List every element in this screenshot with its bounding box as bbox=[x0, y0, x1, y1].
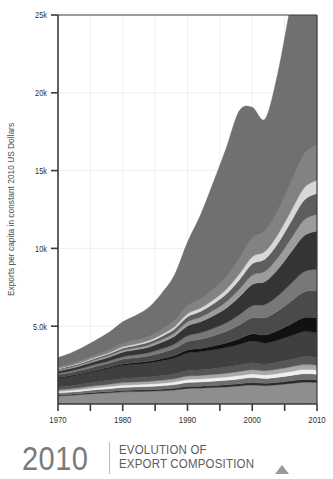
x-tick-label: 2010 bbox=[308, 414, 325, 425]
y-tick-label: 25k bbox=[35, 11, 48, 21]
x-tick-label: 2000 bbox=[244, 414, 261, 425]
stacked-area-chart: 5.0k10k15k20k25k19701980199020002010Year… bbox=[0, 0, 333, 432]
triangle-up-icon bbox=[275, 465, 289, 474]
y-axis-label: Exports per capita in constant 2010 US D… bbox=[6, 122, 17, 296]
x-tick-label: 1970 bbox=[49, 414, 66, 425]
y-tick-label: 15k bbox=[35, 166, 48, 176]
y-tick-label: 20k bbox=[35, 89, 48, 99]
chart-svg: 5.0k10k15k20k25k19701980199020002010Year… bbox=[0, 0, 333, 432]
x-tick-label: 1980 bbox=[114, 414, 131, 425]
footer-title-line-2: EXPORT COMPOSITION bbox=[119, 457, 254, 471]
infographic-page: 5.0k10k15k20k25k19701980199020002010Year… bbox=[0, 0, 333, 479]
x-tick-label: 1990 bbox=[179, 414, 196, 425]
y-tick-label: 5.0k bbox=[33, 322, 48, 332]
footer-year: 2010 bbox=[22, 440, 88, 475]
footer-divider bbox=[109, 442, 110, 474]
footer-inner: 2010 EVOLUTION OF EXPORT COMPOSITION bbox=[22, 440, 289, 475]
chart-footer: 2010 EVOLUTION OF EXPORT COMPOSITION bbox=[0, 438, 333, 479]
footer-title-line-1: EVOLUTION OF bbox=[119, 443, 254, 457]
x-axis-label: Years bbox=[176, 430, 199, 432]
footer-title: EVOLUTION OF EXPORT COMPOSITION bbox=[119, 440, 266, 471]
y-tick-label: 10k bbox=[35, 244, 48, 254]
